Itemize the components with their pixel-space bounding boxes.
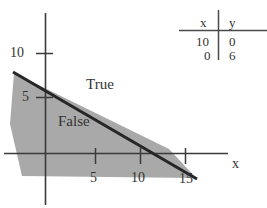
table-row-0-x: 10 [196,35,209,48]
y-tick-label-5: 5 [22,90,29,104]
table-row-1-y: 6 [229,49,236,62]
false-region-label: False [58,114,90,129]
graph-figure: 10 5 5 10 15 x True False x y 10 0 0 6 [0,0,267,208]
table-header-y: y [229,16,236,29]
x-tick-label-10: 10 [131,171,145,185]
y-tick-label-10: 10 [10,46,24,60]
table-row-0-y: 0 [229,35,236,48]
x-tick-label-15: 15 [179,172,193,186]
table-header-x: x [200,16,207,29]
true-region-label: True [86,77,114,92]
x-tick-label-5: 5 [90,171,97,185]
table-row-1-x: 0 [204,49,211,62]
x-axis-label: x [232,157,239,171]
